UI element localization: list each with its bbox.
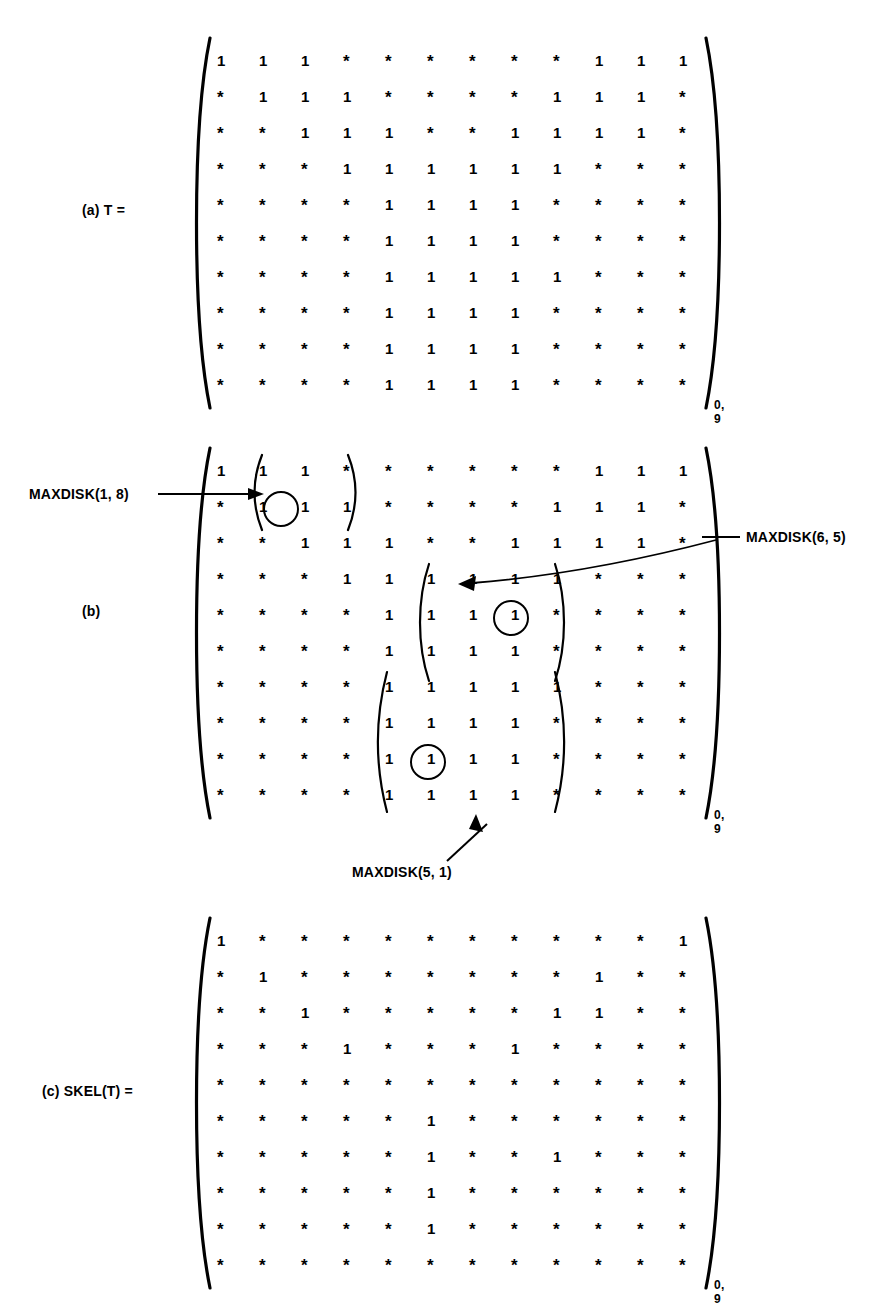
matrix-cell: 1 [466,366,508,402]
matrix-cell: * [592,1174,634,1210]
matrix-cell: * [676,222,718,258]
matrix-cell: * [550,596,592,632]
matrix-cell: 1 [214,452,256,488]
matrix-cell: * [214,1138,256,1174]
matrix-cell: * [508,78,550,114]
matrix-cell: * [298,1102,340,1138]
matrix-cell: * [550,704,592,740]
matrix-cell: 1 [550,488,592,524]
matrix-cell: * [424,42,466,78]
matrix-cell: * [214,366,256,402]
matrix-cell: * [298,704,340,740]
matrix-cell: * [340,1066,382,1102]
matrix-cell: * [256,922,298,958]
matrix-cell: 1 [550,668,592,704]
matrix-cell: * [424,922,466,958]
matrix-cell: * [466,78,508,114]
matrix-cell: * [340,42,382,78]
matrix-cell: * [340,1174,382,1210]
matrix-cell: * [550,958,592,994]
matrix-cell: * [550,222,592,258]
matrix-cell: * [256,1066,298,1102]
matrix-cell: * [424,78,466,114]
matrix-cell: 1 [256,452,298,488]
matrix-cell: * [256,366,298,402]
matrix-cell: * [256,632,298,668]
matrix-cell: 1 [676,922,718,958]
annotation-maxdisk-5-1: MAXDISK(5, 1) [352,864,452,880]
matrix-cell: * [676,704,718,740]
matrix-cell: * [550,42,592,78]
matrix-cell: * [382,1210,424,1246]
matrix-cell: * [340,452,382,488]
matrix-cell: * [214,1066,256,1102]
matrix-cell: * [550,776,592,812]
matrix-cell: * [508,1174,550,1210]
matrix-cell: * [466,114,508,150]
matrix-cell: * [550,632,592,668]
matrix-c-grid: 1**********1*1*******1****1*****11*****1… [214,922,718,1282]
matrix-cell: * [676,958,718,994]
matrix-cell: * [592,1138,634,1174]
matrix-cell: * [382,958,424,994]
matrix-cell: * [214,1246,256,1282]
matrix-cell: * [508,42,550,78]
matrix-cell: * [592,1066,634,1102]
matrix-cell: 1 [508,632,550,668]
matrix-cell: 1 [214,42,256,78]
matrix-cell: * [256,668,298,704]
matrix-cell: * [214,668,256,704]
matrix-cell: * [592,922,634,958]
matrix-cell: 1 [298,42,340,78]
matrix-cell: 1 [340,78,382,114]
matrix-cell: 1 [634,78,676,114]
matrix-cell: * [340,958,382,994]
matrix-cell: * [634,1102,676,1138]
matrix-cell: * [298,1138,340,1174]
matrix-cell: 1 [676,452,718,488]
matrix-cell: * [298,258,340,294]
matrix-cell: 1 [592,42,634,78]
matrix-cell: * [214,1210,256,1246]
matrix-cell: 1 [466,704,508,740]
matrix-cell: * [634,560,676,596]
matrix-a-subscript: 0, 9 [714,398,725,426]
matrix-cell: * [466,1210,508,1246]
matrix-cell: * [508,1210,550,1246]
matrix-cell: 1 [508,668,550,704]
matrix-cell: * [592,560,634,596]
matrix-a-grid: 111******111*111****111***111**1111****1… [214,42,718,402]
matrix-cell: * [634,150,676,186]
matrix-cell: * [676,776,718,812]
matrix-cell: * [340,222,382,258]
matrix-cell: 1 [424,1174,466,1210]
matrix-cell: 1 [382,668,424,704]
matrix-cell: * [256,1030,298,1066]
matrix-cell: * [298,922,340,958]
matrix-cell: 1 [508,704,550,740]
matrix-cell: * [256,330,298,366]
matrix-cell: * [298,1174,340,1210]
matrix-cell: * [382,78,424,114]
matrix-cell: * [466,922,508,958]
matrix-cell: * [424,994,466,1030]
matrix-cell: * [382,452,424,488]
matrix-cell: * [340,1138,382,1174]
matrix-cell: * [256,776,298,812]
matrix-cell: 1 [550,994,592,1030]
matrix-cell: 1 [634,452,676,488]
matrix-cell: 1 [592,994,634,1030]
matrix-cell: * [676,632,718,668]
matrix-cell: 1 [424,740,466,776]
matrix-cell: 1 [466,740,508,776]
matrix-cell: * [592,366,634,402]
matrix-cell: * [256,294,298,330]
matrix-cell: 1 [550,524,592,560]
matrix-cell: * [634,958,676,994]
matrix-cell: * [340,294,382,330]
matrix-cell: 1 [298,114,340,150]
matrix-cell: * [634,366,676,402]
matrix-cell: * [382,994,424,1030]
matrix-cell: * [298,668,340,704]
matrix-cell: * [424,488,466,524]
